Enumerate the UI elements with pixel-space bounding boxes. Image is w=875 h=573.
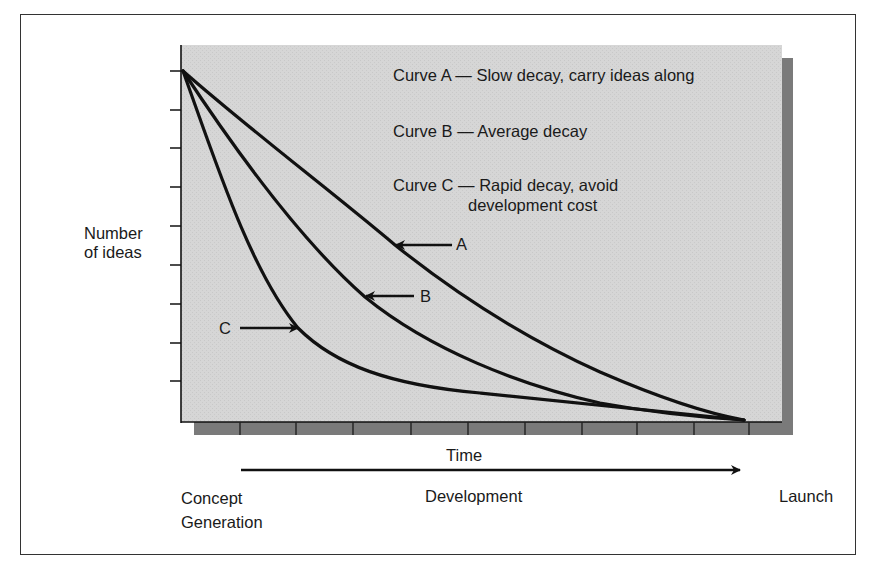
phase-middle-label: Development xyxy=(425,486,522,506)
legend-curve-b: Curve B — Average decay xyxy=(393,121,587,141)
legend-curve-c: Curve C — Rapid decay, avoid development… xyxy=(393,175,618,215)
phase-start-line2: Generation xyxy=(181,513,263,531)
y-axis-label-line1: Number xyxy=(84,224,143,242)
phase-end-label: Launch xyxy=(779,486,833,506)
legend-curve-c-line2: development cost xyxy=(393,195,618,215)
curve-label-a: A xyxy=(456,234,467,254)
curve-label-c: C xyxy=(219,318,231,338)
phase-start-line1: Concept xyxy=(181,489,242,507)
legend-curve-a: Curve A — Slow decay, carry ideas along xyxy=(393,65,694,85)
curve-label-b: B xyxy=(420,286,431,306)
legend-curve-c-line1: Curve C — Rapid decay, avoid xyxy=(393,176,618,194)
x-axis-label: Time xyxy=(446,445,482,465)
y-axis-ticks xyxy=(170,71,181,381)
y-axis-label-line2: of ideas xyxy=(84,243,142,261)
phase-start-label: Concept Generation xyxy=(181,486,263,534)
y-axis-label: Number of ideas xyxy=(84,224,143,262)
